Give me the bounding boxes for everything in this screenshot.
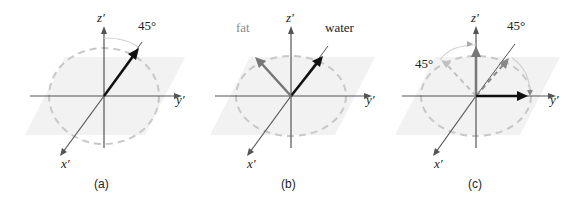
- panel-b: z′ y′ x′ fat water (b): [190, 0, 380, 201]
- x-axis-label: x′: [246, 156, 256, 171]
- angle-label-left: 45°: [415, 56, 433, 71]
- angle-label-right: 45°: [507, 18, 525, 33]
- left-arc-arrowhead: [467, 41, 473, 47]
- z-axis-label: z′: [96, 10, 105, 25]
- y-axis-label: y′: [364, 92, 375, 107]
- x-axis-arrowhead: [60, 148, 67, 156]
- water-label: water: [325, 20, 355, 35]
- angle-label: 45°: [138, 18, 156, 33]
- x-axis-label: x′: [60, 156, 70, 171]
- z-axis-label: z′: [285, 10, 294, 25]
- fat-label: fat: [236, 20, 250, 35]
- x-axis-arrowhead: [247, 148, 254, 156]
- fat-vector-arrowhead: [471, 46, 481, 57]
- y-axis-label: y′: [548, 92, 559, 107]
- z-axis-arrowhead: [101, 26, 107, 34]
- z-axis-arrowhead: [473, 26, 479, 34]
- caption-b: (b): [281, 177, 296, 191]
- y-axis-label: y′: [174, 92, 185, 107]
- panel-c: z′ y′ x′ 45° 45° (c): [380, 0, 574, 201]
- rotation-arc: [104, 38, 139, 48]
- z-axis-arrowhead: [288, 26, 294, 34]
- caption-a: (a): [94, 177, 109, 191]
- z-axis-label: z′: [470, 10, 479, 25]
- caption-c: (c): [468, 177, 482, 191]
- x-axis-label: x′: [433, 156, 443, 171]
- x-axis-arrowhead: [433, 148, 440, 156]
- panel-a: z′ y′ x′ 45° (a): [0, 0, 190, 201]
